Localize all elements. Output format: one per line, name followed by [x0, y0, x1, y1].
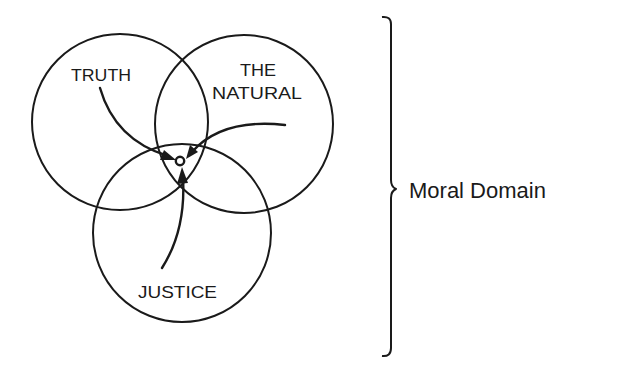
moral-domain-diagram: TRUTH THE NATURAL JUSTICE Moral Domain: [0, 0, 618, 381]
moral-domain-bracket: Moral Domain: [382, 17, 546, 356]
center-point: [176, 157, 184, 165]
truth-label: TRUTH: [71, 66, 131, 85]
moral-domain-label: Moral Domain: [409, 178, 546, 203]
converging-arrows: [100, 88, 285, 268]
natural-label-line1: THE: [240, 61, 276, 80]
curly-brace-icon: [382, 17, 396, 356]
truth-arrowhead: [160, 150, 176, 160]
justice-arrowhead: [177, 167, 188, 184]
natural-label-line2: NATURAL: [212, 84, 302, 103]
justice-label: JUSTICE: [138, 283, 217, 302]
